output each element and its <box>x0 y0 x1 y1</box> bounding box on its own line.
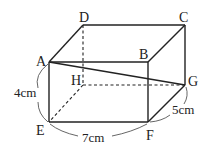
edge-HE <box>49 85 83 122</box>
edge-BC <box>148 25 185 62</box>
dimension-label-width: 5cm <box>172 102 194 117</box>
dimension-label-length: 7cm <box>82 130 104 145</box>
edge-AD <box>49 25 83 62</box>
arc-EF-right <box>112 124 147 136</box>
dimension-arcs <box>37 64 187 136</box>
visible-edges <box>49 25 185 122</box>
arc-EF-left <box>50 124 78 136</box>
vertex-label-D: D <box>79 10 89 25</box>
vertex-label-B: B <box>139 47 148 62</box>
vertex-label-H: H <box>71 73 81 88</box>
prism-diagram: D C A B H G E F 4cm 7cm 5cm <box>0 0 211 154</box>
vertex-label-G: G <box>188 74 198 89</box>
arc-AE-bottom <box>38 102 48 122</box>
vertex-label-F: F <box>146 128 154 143</box>
vertex-label-E: E <box>36 123 45 138</box>
vertex-label-A: A <box>36 54 47 69</box>
diagonal-AG <box>49 62 185 85</box>
vertex-label-C: C <box>179 10 188 25</box>
dimension-label-height: 4cm <box>14 85 36 100</box>
